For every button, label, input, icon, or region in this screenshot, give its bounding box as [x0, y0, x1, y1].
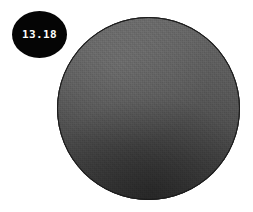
image-canvas: 13.18: [0, 0, 253, 212]
measurement-badge: 13.18: [12, 11, 67, 58]
circular-specimen: [57, 17, 240, 200]
specimen-outline: [57, 17, 240, 200]
measurement-badge-value: 13.18: [22, 29, 57, 40]
